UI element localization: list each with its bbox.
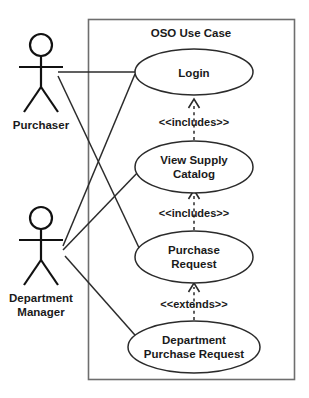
use-case-purchase-request-label-line1: Purchase [168, 244, 220, 256]
actor-purchaser-head-icon [30, 34, 52, 56]
actor-department-manager-label-line1: Department [9, 292, 73, 304]
assoc-purchaser-purchase-request [58, 76, 141, 252]
use-case-view-supply-catalog-ellipse[interactable] [135, 141, 253, 193]
rel-includes-2-label: <<includes>> [159, 207, 229, 219]
rel-extends-1: <<extends>> [160, 283, 227, 320]
actor-department-manager[interactable]: Department Manager [9, 207, 73, 318]
actor-department-manager-head-icon [30, 207, 52, 229]
use-case-purchase-request[interactable]: Purchase Request [135, 231, 253, 283]
use-case-view-supply-catalog[interactable]: View Supply Catalog [135, 141, 253, 193]
rel-extends-1-label: <<extends>> [160, 298, 227, 310]
actor-department-manager-leg-left [24, 260, 41, 285]
use-case-login[interactable]: Login [135, 49, 253, 95]
rel-includes-2: <<includes>> [159, 190, 229, 230]
boundary-title: OSO Use Case [151, 27, 232, 39]
use-case-department-purchase-request-ellipse[interactable] [128, 321, 260, 373]
actor-department-manager-label-line2: Manager [17, 306, 65, 318]
use-case-department-purchase-request[interactable]: Department Purchase Request [128, 321, 260, 373]
use-case-login-label: Login [178, 67, 209, 79]
rel-includes-1-label: <<includes>> [159, 116, 229, 128]
actor-purchaser-leg-left [24, 87, 41, 112]
uml-diagram-svg: OSO Use Case Login --> <<includes>> View… [0, 0, 309, 398]
actor-department-manager-leg-right [41, 260, 58, 285]
actor-purchaser-label: Purchaser [13, 119, 70, 131]
assoc-manager-login [63, 74, 135, 246]
rel-includes-1: <<includes>> [159, 99, 229, 140]
use-case-department-purchase-request-label-line1: Department [162, 334, 226, 346]
use-case-department-purchase-request-label-line2: Purchase Request [144, 348, 245, 360]
use-case-view-supply-catalog-label-line2: Catalog [173, 168, 215, 180]
assoc-manager-view-supply-catalog [63, 170, 140, 250]
use-case-purchase-request-ellipse[interactable] [135, 231, 253, 283]
assoc-manager-department-purchase-request [65, 256, 142, 343]
actor-purchaser-leg-right [41, 87, 58, 112]
use-case-purchase-request-label-line2: Request [171, 258, 217, 270]
use-case-diagram-canvas: OSO Use Case Login --> <<includes>> View… [0, 0, 309, 398]
use-case-view-supply-catalog-label-line1: View Supply [160, 154, 228, 166]
